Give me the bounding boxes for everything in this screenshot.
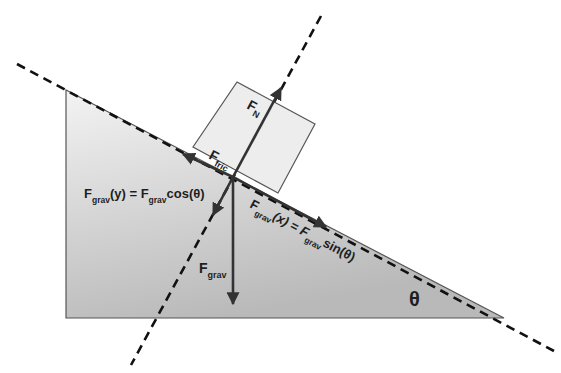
angle-theta-label: θ	[409, 288, 420, 310]
inclined-plane-diagram: FN Ffric Fgrav(y) = Fgravcos(θ) Fgrav(x)…	[0, 0, 561, 373]
